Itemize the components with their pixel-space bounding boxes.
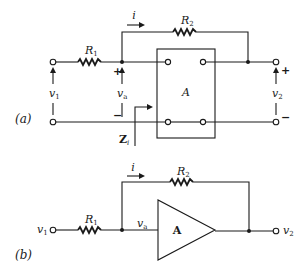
v2-plus-sign: + (281, 64, 290, 77)
va-label-b: va (137, 217, 147, 231)
v1-label: v1 (49, 87, 60, 101)
zi-arrow-icon (147, 104, 153, 110)
amplifier-triangle-icon (158, 200, 215, 260)
wire-feedback-left (122, 32, 173, 62)
block-label: A (181, 86, 190, 99)
v2-label-b: v2 (283, 224, 294, 238)
zi-arrow-line (135, 107, 147, 146)
panel-a-caption: (a) (15, 112, 32, 126)
input-terminal-bottom (50, 119, 56, 125)
output-terminal-top (273, 59, 279, 65)
v1-arrow-icon (50, 67, 56, 73)
r2-label: R2 (180, 14, 194, 28)
v2-label: v2 (272, 87, 283, 101)
v2-arrow-icon (273, 67, 279, 73)
va-plus-sign: + (113, 65, 122, 78)
r1-label: R1 (84, 44, 98, 58)
block-terminal-in-top (165, 59, 170, 64)
wire-feedback-right (196, 32, 248, 62)
block-terminal-in-bottom (165, 119, 170, 124)
output-terminal-bottom (273, 119, 279, 125)
amp-label: A (172, 224, 182, 237)
input-terminal-b (50, 227, 56, 233)
current-label-b: i (131, 161, 135, 174)
junction-output-b (247, 229, 251, 233)
circuit-diagram: A i R1 R2 v1 va + − v2 (0, 0, 304, 273)
block-terminal-out-top (200, 59, 205, 64)
resistor-r2-b-icon (170, 179, 193, 185)
junction-output (246, 60, 250, 64)
va-label: va (117, 87, 127, 101)
panel-b: A i R1 R2 va v1 v2 (b) (15, 161, 294, 262)
output-terminal-b (273, 228, 279, 234)
v2-minus-sign: − (281, 111, 290, 124)
block-terminal-out-bottom (200, 119, 205, 124)
r2-label-b: R2 (176, 165, 190, 179)
resistor-r2-icon (173, 29, 196, 35)
v1-label-b: v1 (37, 223, 48, 237)
resistor-r1-b-icon (78, 227, 101, 233)
junction-node-a (120, 60, 124, 64)
panel-a: A i R1 R2 v1 va + − v2 (15, 9, 290, 147)
input-terminal-top (50, 59, 56, 65)
current-arrow-icon (139, 22, 145, 28)
resistor-r1-icon (78, 59, 101, 65)
junction-node-a-b (120, 228, 124, 232)
current-label: i (132, 9, 136, 22)
panel-b-caption: (b) (15, 248, 32, 262)
zi-label: Zi (119, 133, 129, 147)
r1-label-b: R1 (84, 213, 98, 227)
current-arrow-b-icon (139, 173, 145, 179)
va-minus-sign: − (113, 109, 122, 122)
